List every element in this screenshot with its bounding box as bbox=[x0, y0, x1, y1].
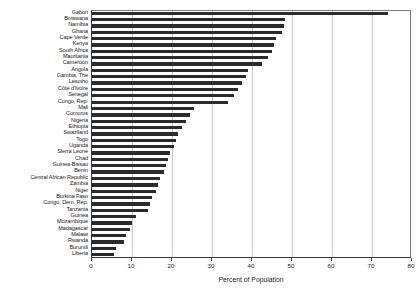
bar bbox=[92, 139, 176, 142]
bar bbox=[92, 126, 182, 129]
bar bbox=[92, 221, 132, 224]
x-axis: 01020304050607080 bbox=[91, 258, 411, 270]
bar bbox=[92, 190, 156, 193]
bar bbox=[92, 94, 234, 97]
bar bbox=[92, 202, 150, 205]
bar bbox=[92, 24, 284, 27]
x-tick-label: 60 bbox=[316, 261, 346, 270]
bar bbox=[92, 50, 272, 53]
bar bbox=[92, 177, 160, 180]
bar bbox=[92, 234, 126, 237]
bar bbox=[92, 228, 130, 231]
bar bbox=[92, 43, 274, 46]
bar bbox=[92, 75, 246, 78]
bar bbox=[92, 120, 186, 123]
bar bbox=[92, 151, 170, 154]
bar bbox=[92, 37, 276, 40]
x-tick-label: 0 bbox=[76, 261, 106, 270]
bar bbox=[92, 12, 388, 15]
bar bbox=[92, 170, 164, 173]
x-tick-label: 80 bbox=[396, 261, 419, 270]
bar bbox=[92, 240, 124, 243]
bar bbox=[92, 107, 194, 110]
bar-rows: GabonBotswanaNamibiaGhanaCape VerdeKenya… bbox=[0, 10, 419, 258]
bar bbox=[92, 196, 152, 199]
x-tick-label: 20 bbox=[156, 261, 186, 270]
bar bbox=[92, 158, 168, 161]
bar-chart: GabonBotswanaNamibiaGhanaCape VerdeKenya… bbox=[0, 0, 419, 296]
bar bbox=[92, 81, 242, 84]
bar bbox=[92, 18, 285, 21]
bar bbox=[92, 56, 268, 59]
bar bbox=[92, 88, 238, 91]
bar bbox=[92, 31, 282, 34]
x-axis-title: Percent of Population bbox=[91, 276, 411, 283]
bar bbox=[92, 209, 148, 212]
x-tick-label: 70 bbox=[356, 261, 386, 270]
x-tick-label: 30 bbox=[196, 261, 226, 270]
bar bbox=[92, 69, 248, 72]
bar bbox=[92, 132, 178, 135]
bar bbox=[92, 215, 136, 218]
x-tick-label: 50 bbox=[276, 261, 306, 270]
category-label: Liberia bbox=[0, 250, 88, 256]
bar bbox=[92, 145, 174, 148]
bar bbox=[92, 62, 262, 65]
bar bbox=[92, 183, 158, 186]
bar bbox=[92, 101, 228, 104]
bar bbox=[92, 247, 116, 250]
bar bbox=[92, 253, 114, 256]
bar bbox=[92, 113, 190, 116]
x-tick-label: 10 bbox=[116, 261, 146, 270]
x-tick-label: 40 bbox=[236, 261, 266, 270]
bar bbox=[92, 164, 166, 167]
